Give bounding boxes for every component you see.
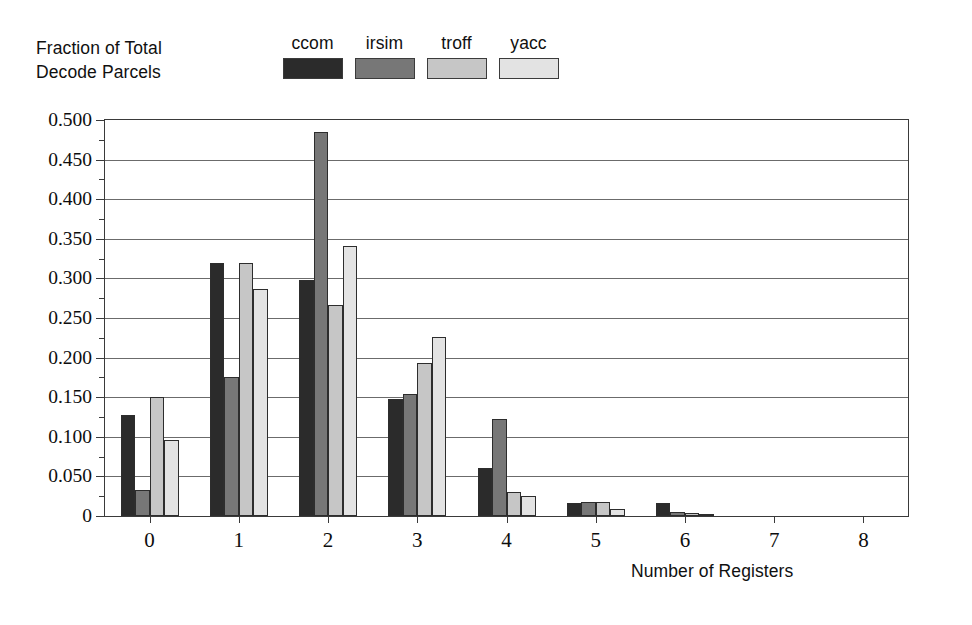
- x-tick-label: 4: [501, 528, 512, 553]
- y-tick: [96, 318, 105, 319]
- bar-troff-2: [328, 305, 343, 516]
- y-tick: [96, 516, 105, 517]
- y-tick: [96, 160, 105, 161]
- bar-ccom-0: [121, 415, 136, 516]
- bar-troff-0: [150, 397, 165, 516]
- y-tick-label: 0.450: [48, 149, 92, 171]
- y-tick: [96, 120, 105, 121]
- bar-irsim-3: [403, 394, 418, 516]
- x-tick: [150, 516, 151, 523]
- y-tick-label: 0.200: [48, 347, 92, 369]
- y-tick: [96, 358, 105, 359]
- x-tick-label: 6: [680, 528, 691, 553]
- x-tick-label: 0: [144, 528, 155, 553]
- bar-yacc-4: [521, 496, 536, 516]
- bar-group-6: [656, 120, 714, 516]
- x-tick: [417, 516, 418, 523]
- x-tick: [596, 516, 597, 523]
- y-tick-minor: [99, 457, 105, 458]
- x-tick-label: 1: [234, 528, 245, 553]
- bar-irsim-4: [492, 419, 507, 516]
- bar-troff-4: [507, 492, 522, 516]
- x-tick-label: 3: [412, 528, 423, 553]
- bar-group-2: [299, 120, 357, 516]
- bar-ccom-5: [567, 503, 582, 516]
- bar-yacc-6: [699, 514, 714, 516]
- bar-irsim-5: [581, 502, 596, 516]
- y-tick: [96, 397, 105, 398]
- x-tick: [685, 516, 686, 523]
- y-tick: [96, 239, 105, 240]
- x-tick: [328, 516, 329, 523]
- bar-troff-6: [685, 513, 700, 516]
- bar-yacc-0: [164, 440, 179, 516]
- bar-group-5: [567, 120, 625, 516]
- y-tick-minor: [99, 259, 105, 260]
- x-tick: [507, 516, 508, 523]
- bar-ccom-1: [210, 263, 225, 516]
- y-tick: [96, 476, 105, 477]
- y-tick-minor: [99, 338, 105, 339]
- bar-yacc-5: [610, 509, 625, 516]
- y-tick-label: 0.150: [48, 386, 92, 408]
- bar-group-0: [121, 120, 179, 516]
- x-tick-label: 2: [323, 528, 334, 553]
- y-tick: [96, 278, 105, 279]
- y-tick-label: 0.050: [48, 465, 92, 487]
- plot-frame: 00.0500.1000.1500.2000.2500.3000.3500.40…: [104, 119, 909, 517]
- bar-ccom-6: [656, 503, 671, 516]
- bar-ccom-2: [299, 280, 314, 516]
- bar-ccom-3: [388, 399, 403, 516]
- y-tick-minor: [99, 496, 105, 497]
- bar-group-1: [210, 120, 268, 516]
- x-axis-title: Number of Registers: [631, 561, 793, 582]
- y-tick-minor: [99, 417, 105, 418]
- x-tick: [239, 516, 240, 523]
- y-tick-minor: [99, 219, 105, 220]
- bar-ccom-4: [478, 468, 493, 516]
- y-tick-minor: [99, 298, 105, 299]
- bar-group-8: [834, 120, 892, 516]
- y-tick-minor: [99, 179, 105, 180]
- bar-yacc-1: [253, 289, 268, 516]
- bar-irsim-1: [224, 377, 239, 516]
- bar-group-7: [745, 120, 803, 516]
- y-tick-minor: [99, 377, 105, 378]
- plot-wrapper: 00.0500.1000.1500.2000.2500.3000.3500.40…: [0, 0, 972, 625]
- x-tick: [863, 516, 864, 523]
- bar-troff-5: [596, 502, 611, 516]
- y-tick-label: 0.100: [48, 426, 92, 448]
- bar-group-4: [478, 120, 536, 516]
- x-tick: [774, 516, 775, 523]
- bar-yacc-2: [343, 246, 358, 516]
- x-tick-label: 7: [769, 528, 780, 553]
- bar-group-3: [388, 120, 446, 516]
- y-tick-label: 0.250: [48, 307, 92, 329]
- y-tick: [96, 437, 105, 438]
- bar-irsim-2: [314, 132, 329, 516]
- y-tick: [96, 199, 105, 200]
- y-tick-label: 0.300: [48, 267, 92, 289]
- y-tick-minor: [99, 140, 105, 141]
- x-tick-label: 8: [858, 528, 869, 553]
- bar-irsim-6: [670, 512, 685, 516]
- bar-irsim-0: [135, 490, 150, 516]
- y-tick-label: 0.350: [48, 228, 92, 250]
- bar-troff-3: [417, 363, 432, 516]
- y-tick-label: 0: [82, 505, 92, 527]
- x-tick-label: 5: [590, 528, 601, 553]
- y-tick-label: 0.500: [48, 109, 92, 131]
- bar-yacc-3: [432, 337, 447, 516]
- y-tick-label: 0.400: [48, 188, 92, 210]
- bar-troff-1: [239, 263, 254, 516]
